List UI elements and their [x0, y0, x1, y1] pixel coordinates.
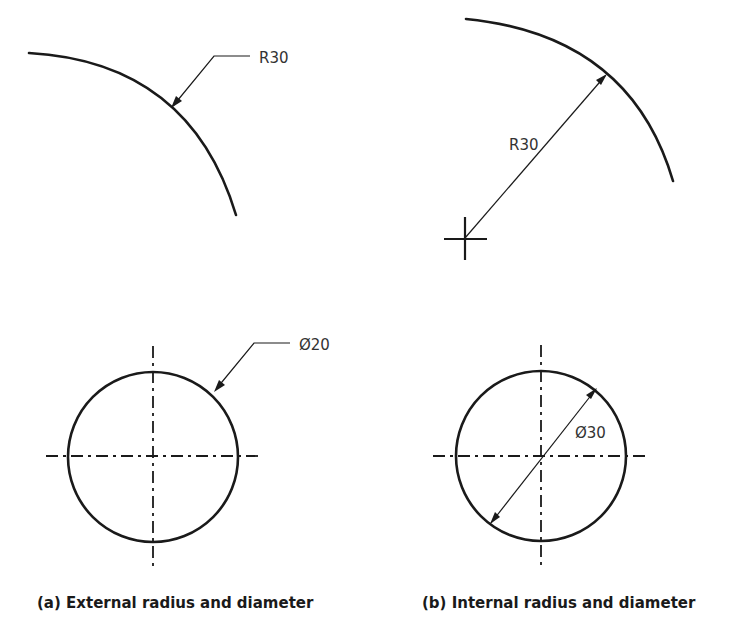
diameter-leader-line-a	[217, 343, 290, 388]
internal-arc	[466, 19, 673, 181]
external-arc	[29, 53, 236, 215]
diameter-dimension-line-b	[491, 389, 596, 523]
figure-a-external-diameter: Ø20	[46, 336, 330, 568]
figure-b-internal-diameter: Ø30	[433, 345, 650, 568]
radius-leader-line-a	[173, 56, 250, 106]
drawing-canvas: R30 R30 Ø20 Ø30	[0, 0, 744, 623]
figure-a-external-radius: R30	[29, 49, 289, 215]
center-mark-b	[444, 217, 487, 260]
radius-dimension-line-b	[465, 76, 605, 238]
radius-arrowhead-b	[596, 74, 607, 85]
caption-b: (b) Internal radius and diameter	[422, 594, 695, 612]
diameter-label-a: Ø20	[299, 336, 330, 354]
diameter-label-b: Ø30	[575, 424, 606, 442]
diameter-arrowhead-a	[214, 380, 225, 392]
diameter-arrowhead-b-top	[586, 388, 597, 399]
radius-label-a: R30	[259, 49, 289, 67]
radius-label-b: R30	[509, 136, 539, 154]
caption-a: (a) External radius and diameter	[37, 594, 313, 612]
figure-b-internal-radius: R30	[444, 19, 673, 260]
